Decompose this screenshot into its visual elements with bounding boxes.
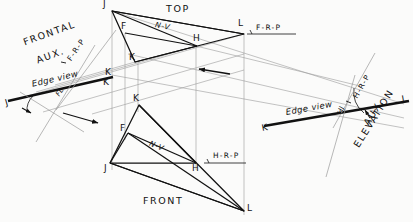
top-line-K-H (135, 46, 197, 62)
front-label-L: L (247, 204, 252, 213)
aux-proj-left-3 (92, 70, 244, 114)
frp-left-tick (61, 62, 66, 63)
hrp-front-tick (207, 159, 209, 163)
top-label-J: J (103, 0, 106, 9)
front-label-J: J (104, 164, 107, 173)
top-label-H: H (193, 34, 200, 43)
frp-top-label: F-R-P (256, 24, 281, 32)
hrp-right-tick (346, 101, 351, 103)
fold-line-hj (326, 75, 355, 177)
front-label-K: K (133, 94, 139, 103)
top-line-J-L2 (112, 11, 244, 34)
top-label-L: L (238, 19, 243, 28)
frp-top-tick (250, 30, 252, 34)
view-title-top: TOP (166, 4, 190, 14)
frontal-aux-label-K: K (105, 68, 111, 77)
aux-proj-right-2 (196, 46, 360, 86)
front-line-K-H (139, 105, 196, 163)
drawing-canvas: J F H K L TOP N-V F-R-P K F J H L FRONT … (0, 0, 413, 222)
view-title-front: FRONT (143, 196, 183, 206)
frontal-aux-label-K2: K (103, 78, 109, 87)
sight-arrow-front (63, 113, 98, 123)
hrp-front-label: H-R-P (213, 152, 239, 160)
top-label-K: K (129, 53, 135, 62)
front-line-J-F (110, 133, 128, 163)
top-line-F-H (125, 33, 197, 46)
front-label-F: F (120, 124, 125, 133)
auxiliary-projectors-left (10, 34, 244, 114)
left-angle-pointer (22, 108, 31, 113)
projection-lines-group (112, 11, 244, 215)
front-label-H: H (192, 164, 199, 173)
aux-elev-label-K: K (261, 123, 268, 133)
top-label-F: F (121, 22, 126, 31)
